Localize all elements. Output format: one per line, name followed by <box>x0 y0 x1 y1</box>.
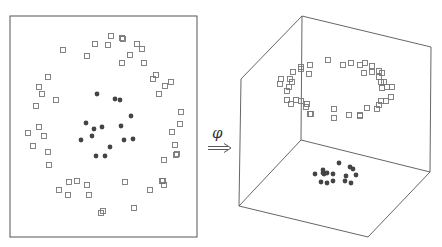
class-b-dot-marker <box>118 98 123 103</box>
double-right-arrow-icon <box>208 144 231 153</box>
cube-edge <box>239 140 301 206</box>
class-a-square-marker <box>67 180 72 185</box>
class-b-dot-marker <box>131 137 136 142</box>
class-a-square-marker <box>162 158 167 163</box>
class-a-square-marker <box>109 34 114 39</box>
class-b-dot-marker <box>349 181 354 186</box>
class-a-square-marker <box>382 80 387 85</box>
class-a-square-marker <box>179 110 184 115</box>
class-a-square-marker <box>173 143 178 148</box>
class-b-dot-marker <box>344 174 349 179</box>
class-b-dot-marker <box>337 161 342 166</box>
class-b-dot-marker <box>108 145 113 150</box>
class-a-square-marker <box>87 193 92 198</box>
class-b-dot-marker <box>313 172 318 177</box>
class-a-square-marker <box>370 70 375 75</box>
class-a-square-marker <box>279 77 284 82</box>
class-a-square-marker <box>120 61 125 66</box>
class-a-square-marker <box>363 61 368 66</box>
class-a-square-marker <box>341 63 346 68</box>
class-a-square-marker <box>46 75 51 80</box>
class-a-square-marker <box>75 179 80 184</box>
feature-space-cube-panel <box>239 16 431 237</box>
class-b-dot-marker <box>122 138 127 143</box>
cube-edge <box>301 140 430 172</box>
class-a-square-marker <box>61 48 66 53</box>
class-a-square-marker <box>332 116 337 121</box>
class-a-square-marker <box>349 61 354 66</box>
class-a-square-marker <box>379 80 384 85</box>
class-a-square-marker <box>37 125 42 130</box>
class-a-square-marker <box>157 92 162 97</box>
class-b-dot-marker <box>113 97 118 102</box>
class-a-square-marker <box>288 77 293 82</box>
class-a-square-marker <box>54 98 59 103</box>
class-a-square-marker <box>178 122 183 127</box>
class-b-dot-marker <box>319 180 324 185</box>
class-a-square-marker <box>128 53 133 58</box>
cube-edge <box>239 79 241 206</box>
class-a-square-marker <box>101 209 106 214</box>
class-a-square-marker <box>347 113 352 118</box>
class-b-dot-marker <box>100 125 105 130</box>
class-a-square-marker <box>42 134 47 139</box>
class-a-square-marker <box>377 69 382 74</box>
class-a-square-marker <box>294 98 299 103</box>
class-a-square-marker <box>169 80 174 85</box>
class-a-square-marker <box>326 58 331 63</box>
class-a-square-marker <box>142 61 147 66</box>
class-a-square-marker <box>34 104 39 109</box>
class-a-square-marker <box>291 70 296 75</box>
class-a-square-marker <box>278 82 283 87</box>
class-a-square-marker <box>37 85 42 90</box>
class-a-square-marker <box>40 92 45 97</box>
class-a-square-marker <box>140 47 145 52</box>
class-a-square-marker <box>385 85 390 90</box>
class-b-dot-marker <box>92 127 97 132</box>
class-a-square-marker <box>307 72 312 77</box>
class-a-square-marker <box>99 211 104 216</box>
class-a-square-marker <box>132 206 137 211</box>
class-a-square-marker <box>106 43 111 48</box>
cube-edge <box>239 206 368 237</box>
class-a-square-marker <box>57 188 62 193</box>
class-a-square-marker <box>46 150 51 155</box>
cube-edge <box>368 172 430 237</box>
class-a-square-marker <box>380 86 385 91</box>
class-a-square-marker <box>148 188 153 193</box>
class-a-square-marker <box>390 85 395 90</box>
class-a-square-marker <box>47 163 52 168</box>
class-a-square-marker <box>163 84 168 89</box>
class-a-square-marker <box>299 65 304 70</box>
class-a-square-marker <box>332 107 337 112</box>
class-b-dot-marker <box>351 167 356 172</box>
cube-edge <box>301 16 302 140</box>
class-b-dot-marker <box>331 172 336 177</box>
class-a-square-marker <box>93 42 98 47</box>
class-b-dot-marker <box>95 92 100 97</box>
class-a-square-marker <box>85 183 90 188</box>
class-a-square-marker <box>358 63 363 68</box>
phi-mapping-label: φ <box>212 124 223 142</box>
class-a-square-marker <box>362 71 367 76</box>
class-b-dot-marker <box>321 171 326 176</box>
class-a-square-marker <box>389 95 394 100</box>
class-b-dot-marker <box>343 179 348 184</box>
cube-edge <box>430 47 431 172</box>
class-a-square-marker <box>31 144 36 149</box>
class-a-square-marker <box>66 193 71 198</box>
class-a-square-marker <box>85 54 90 59</box>
class-a-square-marker <box>26 131 31 136</box>
class-a-square-marker <box>365 106 370 111</box>
class-b-dot-marker <box>79 138 84 143</box>
class-b-dot-marker <box>94 154 99 159</box>
class-b-dot-marker <box>331 179 336 184</box>
class-a-square-marker <box>135 42 140 47</box>
class-b-dot-marker <box>90 134 95 139</box>
class-a-square-marker <box>308 63 313 68</box>
class-b-dot-marker <box>84 121 89 126</box>
class-a-square-marker <box>290 80 295 85</box>
class-b-dot-marker <box>129 114 134 119</box>
class-b-dot-marker <box>119 124 124 129</box>
class-b-dot-marker <box>103 154 108 159</box>
